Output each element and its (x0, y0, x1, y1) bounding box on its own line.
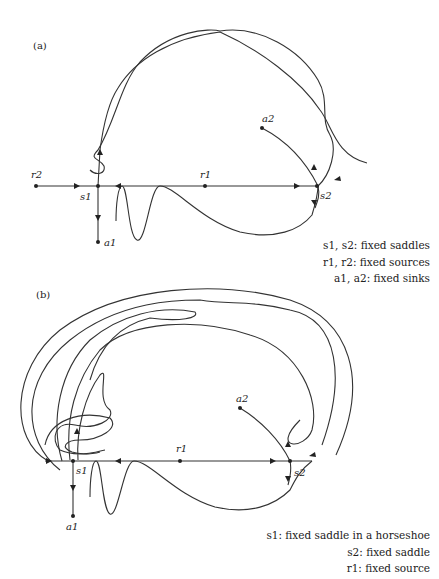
label-s1: s1 (76, 465, 88, 476)
label-s2: s2 (320, 190, 332, 201)
arrow-left (334, 176, 341, 181)
legend-a-saddles: s1, s2: fixed saddles (323, 237, 430, 254)
point-a2 (238, 406, 242, 410)
point-a2 (260, 126, 264, 130)
legend-a-sources: r1, r2: fixed sources (323, 254, 430, 271)
arrow-left (115, 458, 121, 464)
arrow-up (311, 164, 317, 170)
manifold-curve-lower (90, 461, 312, 514)
panel-a-label: (a) (33, 40, 47, 51)
label-a2: a2 (236, 393, 248, 404)
arrow-down (285, 476, 291, 482)
arrow-right (74, 183, 80, 189)
arrow-up (285, 441, 291, 447)
horseshoe-arc-1 (21, 289, 353, 461)
arrow-right (270, 458, 276, 464)
unstable-manifold-s2 (262, 128, 319, 208)
label-s2: s2 (294, 467, 306, 478)
arrow-down (95, 215, 101, 221)
arrow-right (294, 183, 300, 189)
arrow-left (309, 452, 316, 457)
panel-b: (b) s1 a1 r1 a2 s2 (21, 289, 353, 532)
legend-a-sinks: a1, a2: fixed sinks (323, 270, 430, 287)
label-a1: a1 (104, 237, 116, 248)
unstable-manifold-s2 (240, 408, 291, 485)
panel-a: (a) r2 s1 a1 r1 a2 s2 (31, 30, 367, 248)
manifold-curve-2 (98, 32, 367, 186)
point-r2 (34, 184, 38, 188)
diagram-canvas: (a) r2 s1 a1 r1 a2 s2 (0, 0, 439, 579)
legend-b: s1: fixed saddle in a horseshoe s2: fixe… (266, 527, 430, 577)
label-a2: a2 (262, 113, 274, 124)
label-a1: a1 (66, 521, 78, 532)
point-a1 (71, 514, 75, 518)
legend-b-horseshoe-saddle: s1: fixed saddle in a horseshoe (266, 527, 430, 544)
manifold-curve-lower (116, 186, 318, 240)
point-r1 (178, 459, 182, 463)
point-s2 (315, 184, 319, 188)
legend-a: s1, s2: fixed saddles r1, r2: fixed sour… (323, 237, 430, 287)
arrow-down (70, 485, 76, 491)
panel-b-label: (b) (36, 289, 50, 300)
point-s1 (71, 459, 75, 463)
manifold-curve-1 (90, 30, 333, 186)
arrow-left (115, 183, 121, 189)
point-a1 (96, 240, 100, 244)
point-r1 (203, 184, 207, 188)
legend-b-saddle: s2: fixed saddle (266, 544, 430, 561)
label-r2: r2 (31, 169, 42, 180)
legend-b-source: r1: fixed source (266, 560, 430, 577)
point-s1 (96, 184, 100, 188)
label-r1: r1 (176, 443, 187, 454)
point-s2 (288, 459, 292, 463)
label-r1: r1 (200, 169, 211, 180)
label-s1: s1 (80, 191, 92, 202)
